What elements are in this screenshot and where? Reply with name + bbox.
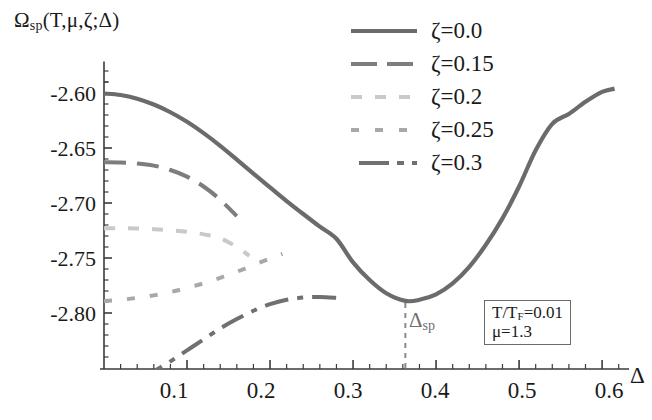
plot-canvas — [0, 0, 652, 420]
series-curve-4 — [141, 297, 344, 379]
series-curve-0 — [104, 89, 615, 302]
series-curve-1 — [104, 162, 237, 216]
series-curve-3 — [104, 254, 282, 301]
figure-container: Ωsp(T,μ,ζ;Δ) -2.60 -2.65 -2.70 -2.75 -2.… — [0, 0, 652, 420]
axis-layer — [100, 62, 629, 370]
series-layer — [104, 89, 615, 379]
series-curve-2 — [104, 228, 249, 256]
